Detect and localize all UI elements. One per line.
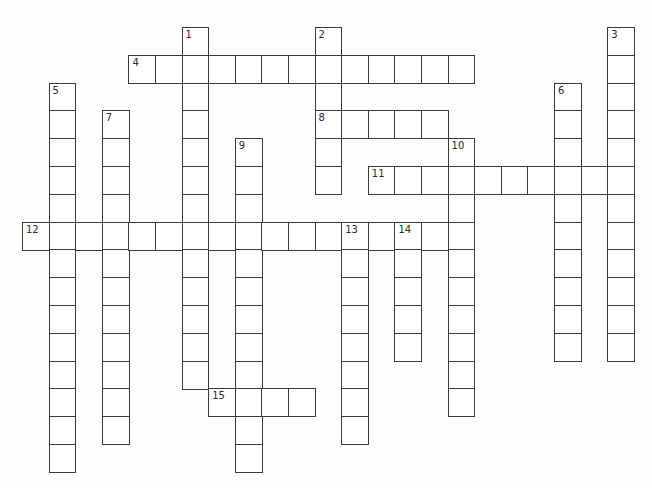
grid-cell[interactable] xyxy=(554,333,582,362)
grid-cell[interactable] xyxy=(607,333,635,362)
grid-cell[interactable] xyxy=(368,222,396,251)
grid-cell[interactable] xyxy=(182,333,210,362)
grid-cell[interactable] xyxy=(235,305,263,334)
grid-cell[interactable]: 2 xyxy=(315,27,343,56)
grid-cell[interactable] xyxy=(554,277,582,306)
grid-cell[interactable] xyxy=(607,249,635,278)
grid-cell[interactable]: 15 xyxy=(208,388,236,417)
grid-cell[interactable] xyxy=(421,110,449,139)
grid-cell[interactable] xyxy=(607,194,635,223)
grid-cell[interactable] xyxy=(49,277,77,306)
grid-cell[interactable] xyxy=(208,55,236,84)
grid-cell[interactable]: 11 xyxy=(368,166,396,195)
grid-cell[interactable] xyxy=(182,55,210,84)
grid-cell[interactable] xyxy=(341,416,369,445)
grid-cell[interactable] xyxy=(448,361,476,390)
grid-cell[interactable] xyxy=(235,222,263,251)
grid-cell[interactable] xyxy=(235,416,263,445)
grid-cell[interactable] xyxy=(341,361,369,390)
grid-cell[interactable] xyxy=(49,444,77,473)
grid-cell[interactable] xyxy=(182,361,210,390)
grid-cell[interactable] xyxy=(394,55,422,84)
grid-cell[interactable] xyxy=(448,55,476,84)
grid-cell[interactable] xyxy=(102,166,130,195)
grid-cell[interactable] xyxy=(49,249,77,278)
grid-cell[interactable] xyxy=(607,138,635,167)
grid-cell[interactable] xyxy=(49,388,77,417)
grid-cell[interactable] xyxy=(315,138,343,167)
grid-cell[interactable] xyxy=(421,55,449,84)
grid-cell[interactable] xyxy=(448,166,476,195)
grid-cell[interactable] xyxy=(102,333,130,362)
grid-cell[interactable] xyxy=(49,166,77,195)
grid-cell[interactable] xyxy=(421,222,449,251)
grid-cell[interactable]: 5 xyxy=(49,83,77,112)
grid-cell[interactable] xyxy=(235,388,263,417)
grid-cell[interactable]: 13 xyxy=(341,222,369,251)
grid-cell[interactable] xyxy=(554,194,582,223)
grid-cell[interactable] xyxy=(554,166,582,195)
grid-cell[interactable] xyxy=(49,138,77,167)
grid-cell[interactable] xyxy=(341,388,369,417)
grid-cell[interactable] xyxy=(554,222,582,251)
grid-cell[interactable] xyxy=(288,55,316,84)
grid-cell[interactable] xyxy=(448,222,476,251)
grid-cell[interactable] xyxy=(341,305,369,334)
grid-cell[interactable] xyxy=(607,83,635,112)
grid-cell[interactable] xyxy=(182,166,210,195)
grid-cell[interactable] xyxy=(102,388,130,417)
grid-cell[interactable] xyxy=(341,55,369,84)
grid-cell[interactable] xyxy=(49,194,77,223)
grid-cell[interactable] xyxy=(182,194,210,223)
grid-cell[interactable] xyxy=(607,277,635,306)
grid-cell[interactable] xyxy=(208,222,236,251)
grid-cell[interactable]: 7 xyxy=(102,110,130,139)
grid-cell[interactable] xyxy=(235,166,263,195)
grid-cell[interactable] xyxy=(235,55,263,84)
grid-cell[interactable] xyxy=(49,222,77,251)
grid-cell[interactable] xyxy=(49,333,77,362)
grid-cell[interactable] xyxy=(288,388,316,417)
grid-cell[interactable] xyxy=(49,110,77,139)
grid-cell[interactable] xyxy=(554,305,582,334)
grid-cell[interactable] xyxy=(394,166,422,195)
grid-cell[interactable] xyxy=(182,138,210,167)
grid-cell[interactable] xyxy=(155,222,183,251)
grid-cell[interactable] xyxy=(235,361,263,390)
grid-cell[interactable] xyxy=(182,222,210,251)
grid-cell[interactable] xyxy=(261,388,289,417)
grid-cell[interactable] xyxy=(102,194,130,223)
grid-cell[interactable] xyxy=(235,249,263,278)
grid-cell[interactable] xyxy=(607,305,635,334)
grid-cell[interactable] xyxy=(315,222,343,251)
grid-cell[interactable] xyxy=(448,277,476,306)
grid-cell[interactable]: 4 xyxy=(128,55,156,84)
grid-cell[interactable] xyxy=(182,305,210,334)
grid-cell[interactable]: 12 xyxy=(22,222,50,251)
grid-cell[interactable] xyxy=(341,277,369,306)
grid-cell[interactable] xyxy=(421,166,449,195)
grid-cell[interactable] xyxy=(102,249,130,278)
grid-cell[interactable] xyxy=(341,110,369,139)
grid-cell[interactable] xyxy=(368,110,396,139)
grid-cell[interactable] xyxy=(394,249,422,278)
grid-cell[interactable] xyxy=(554,249,582,278)
grid-cell[interactable] xyxy=(554,110,582,139)
grid-cell[interactable] xyxy=(288,222,316,251)
grid-cell[interactable] xyxy=(102,416,130,445)
grid-cell[interactable] xyxy=(448,333,476,362)
grid-cell[interactable] xyxy=(394,277,422,306)
grid-cell[interactable] xyxy=(182,110,210,139)
grid-cell[interactable] xyxy=(448,388,476,417)
grid-cell[interactable]: 6 xyxy=(554,83,582,112)
grid-cell[interactable] xyxy=(102,305,130,334)
grid-cell[interactable] xyxy=(128,222,156,251)
grid-cell[interactable] xyxy=(235,333,263,362)
grid-cell[interactable] xyxy=(235,277,263,306)
grid-cell[interactable] xyxy=(261,55,289,84)
grid-cell[interactable] xyxy=(102,361,130,390)
grid-cell[interactable]: 1 xyxy=(182,27,210,56)
grid-cell[interactable] xyxy=(554,138,582,167)
grid-cell[interactable] xyxy=(261,222,289,251)
grid-cell[interactable] xyxy=(182,83,210,112)
